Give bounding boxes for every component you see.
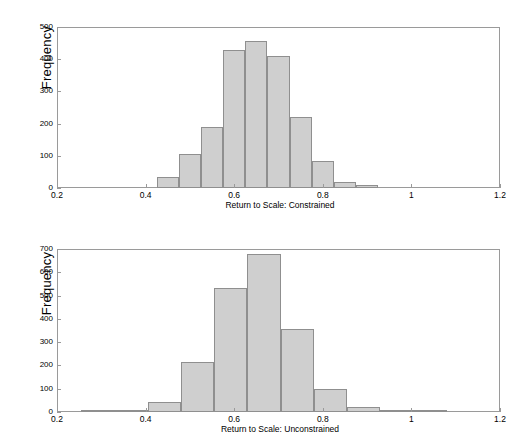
x-tick-label: 1: [391, 191, 431, 200]
x-tick-label: 1: [391, 415, 431, 424]
y-tick-mark: [57, 342, 61, 343]
histogram-bar: [247, 254, 280, 412]
chart-panel-constrained: Frequency Return to Scale: Constrained 0…: [0, 0, 531, 224]
x-tick-label: 1.2: [480, 415, 520, 424]
y-tick-label: 400: [17, 315, 53, 323]
histogram-bar: [181, 362, 214, 412]
plot-area-top: [57, 27, 500, 188]
x-axis-label-top: Return to Scale: Constrained: [145, 200, 415, 210]
chart-panel-unconstrained: Frequency Return to Scale: Unconstrained…: [0, 224, 531, 447]
y-tick-mark: [57, 249, 61, 250]
y-tick-mark: [57, 319, 61, 320]
y-tick-mark: [57, 389, 61, 390]
histogram-bar: [414, 410, 447, 412]
plot-area-bottom: [57, 249, 500, 412]
x-axis-label-bottom: Return to Scale: Unconstrained: [145, 424, 415, 434]
figure-histograms-return-to-scale: Frequency Return to Scale: Constrained 0…: [0, 0, 531, 447]
y-tick-label: 100: [17, 385, 53, 393]
x-tick-mark: [234, 408, 235, 412]
histogram-bar: [334, 182, 356, 188]
histogram-bar: [179, 154, 201, 188]
y-tick-mark: [57, 91, 61, 92]
histogram-bar: [223, 50, 245, 188]
y-tick-mark: [57, 365, 61, 366]
x-tick-label: 0.6: [214, 191, 254, 200]
y-tick-label: 600: [17, 268, 53, 276]
y-tick-mark: [57, 188, 61, 189]
histogram-bar: [267, 56, 289, 188]
y-tick-label: 200: [17, 361, 53, 369]
histogram-bar: [281, 329, 314, 412]
x-tick-mark: [500, 184, 501, 188]
histogram-bar: [347, 407, 380, 412]
histogram-bar: [214, 288, 247, 412]
x-tick-mark: [234, 184, 235, 188]
x-tick-label: 0.4: [126, 415, 166, 424]
y-tick-mark: [57, 124, 61, 125]
y-tick-mark: [57, 272, 61, 273]
x-tick-mark: [146, 184, 147, 188]
histogram-bar: [157, 177, 179, 188]
y-tick-label: 400: [17, 55, 53, 63]
x-tick-label: 0.2: [37, 415, 77, 424]
x-tick-label: 1.2: [480, 191, 520, 200]
y-tick-mark: [57, 296, 61, 297]
y-tick-label: 500: [17, 23, 53, 31]
y-tick-label: 300: [17, 87, 53, 95]
x-tick-label: 0.8: [303, 191, 343, 200]
histogram-bar: [380, 410, 413, 412]
y-tick-label: 100: [17, 152, 53, 160]
y-tick-mark: [57, 412, 61, 413]
histogram-bar: [148, 402, 181, 412]
x-tick-mark: [323, 184, 324, 188]
y-tick-label: 200: [17, 120, 53, 128]
y-tick-mark: [57, 59, 61, 60]
x-tick-label: 0.8: [303, 415, 343, 424]
y-tick-label: 700: [17, 245, 53, 253]
y-tick-label: 500: [17, 292, 53, 300]
histogram-bar: [115, 410, 148, 412]
x-tick-mark: [500, 408, 501, 412]
x-tick-mark: [57, 184, 58, 188]
histogram-bar: [81, 410, 114, 412]
x-tick-label: 0.2: [37, 191, 77, 200]
x-tick-label: 0.6: [214, 415, 254, 424]
x-tick-mark: [411, 408, 412, 412]
histogram-bar: [356, 185, 378, 188]
x-tick-mark: [57, 408, 58, 412]
y-axis-label-bottom: Frequency: [39, 224, 54, 344]
histogram-bar: [245, 41, 267, 188]
histogram-bar: [201, 127, 223, 188]
x-tick-mark: [323, 408, 324, 412]
y-tick-mark: [57, 27, 61, 28]
x-tick-mark: [146, 408, 147, 412]
y-tick-mark: [57, 156, 61, 157]
y-tick-label: 300: [17, 338, 53, 346]
histogram-bar: [290, 117, 312, 188]
x-tick-label: 0.4: [126, 191, 166, 200]
x-tick-mark: [411, 184, 412, 188]
histogram-bar: [314, 389, 347, 412]
